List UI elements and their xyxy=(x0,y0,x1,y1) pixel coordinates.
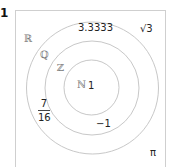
problem-panel: 1 ℝ ℚ ℤ ℕ 1 −1 3.3333 7 16 √3 π xyxy=(0,0,170,167)
set-label-rationals: ℚ xyxy=(40,50,49,60)
element-irrational-pi: π xyxy=(150,148,156,158)
set-label-integers: ℤ xyxy=(57,63,64,73)
fraction-bar xyxy=(38,110,50,111)
element-rational-fraction: 7 16 xyxy=(38,99,50,123)
element-integer: −1 xyxy=(96,119,111,129)
set-label-naturals: ℕ xyxy=(77,80,86,90)
element-rational-decimal: 3.3333 xyxy=(78,23,113,33)
set-label-reals: ℝ xyxy=(24,34,32,44)
element-natural: 1 xyxy=(88,81,94,91)
fraction-numerator: 7 xyxy=(38,99,50,109)
element-irrational-root: √3 xyxy=(140,24,153,34)
fraction-denominator: 16 xyxy=(38,113,50,123)
